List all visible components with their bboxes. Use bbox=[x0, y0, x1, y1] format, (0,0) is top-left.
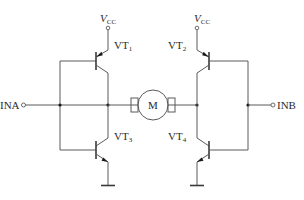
vt1-collector bbox=[96, 65, 108, 73]
inb-terminal bbox=[271, 103, 275, 107]
ina-label: INA bbox=[0, 99, 20, 111]
transistor-vt1: VT1 bbox=[60, 30, 133, 105]
left-base-node bbox=[58, 103, 61, 106]
inb-label: INB bbox=[277, 99, 296, 111]
vcc-left-terminal bbox=[106, 26, 110, 30]
right-half: VCC VT2 INB VT4 bbox=[168, 12, 296, 186]
vt2-label: VT2 bbox=[168, 39, 187, 53]
vt2-arrow-icon bbox=[202, 52, 209, 57]
vt3-collector bbox=[96, 138, 108, 146]
transistor-vt3: VT3 bbox=[60, 105, 133, 185]
vcc-left-label: VCC bbox=[100, 12, 116, 26]
motor: M bbox=[108, 90, 197, 120]
transistor-vt4: VT4 bbox=[168, 105, 248, 185]
vt2-collector bbox=[197, 65, 209, 73]
vcc-right-terminal bbox=[195, 26, 199, 30]
vt1-arrow-icon bbox=[96, 52, 103, 57]
transistor-vt2: VT2 bbox=[168, 30, 248, 105]
vcc-right-label: VCC bbox=[194, 12, 210, 26]
h-bridge-diagram: INA VT1 VCC bbox=[0, 0, 304, 200]
motor-label: M bbox=[148, 99, 158, 111]
ina-terminal bbox=[22, 103, 26, 107]
vt1-label: VT1 bbox=[114, 39, 133, 53]
vt4-collector bbox=[197, 138, 209, 146]
vt4-label: VT4 bbox=[168, 130, 187, 144]
vt3-label: VT3 bbox=[114, 130, 133, 144]
left-half: INA VT1 VCC bbox=[0, 12, 133, 186]
